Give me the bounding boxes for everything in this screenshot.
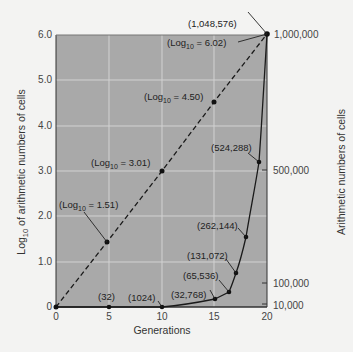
annotation-131072: (131,072) (187, 250, 228, 261)
svg-text:10,000: 10,000 (273, 300, 304, 311)
svg-text:1,000,000: 1,000,000 (274, 29, 319, 40)
svg-text:5: 5 (106, 311, 112, 322)
annotation-65536: (65,536) (183, 270, 218, 281)
annotation-262144: (262,144) (197, 220, 238, 231)
svg-text:100,000: 100,000 (273, 278, 310, 289)
svg-text:15: 15 (208, 311, 220, 322)
x-ticks: 0 5 10 15 20 (53, 311, 273, 322)
svg-text:10: 10 (156, 311, 168, 322)
annotation-32: (32) (98, 291, 115, 302)
left-y-ticks: 0 1.0 2.0 3.0 4.0 5.0 6.0 (38, 29, 52, 312)
svg-text:500,000: 500,000 (273, 165, 310, 176)
annotation-1024: (1024) (128, 292, 155, 303)
chart: (Log10 = 1.51) (Log10 = 3.01) (Log10 = 4… (0, 0, 353, 352)
right-axis-title: Arithmetic numbers of cells (335, 109, 347, 235)
svg-text:6.0: 6.0 (38, 29, 52, 40)
svg-text:20: 20 (261, 311, 273, 322)
x-axis-title: Generations (133, 324, 190, 336)
svg-text:0: 0 (46, 301, 52, 312)
annotation-32768: (32,768) (171, 289, 206, 300)
annotation-524288: (524,288) (211, 142, 252, 153)
svg-text:5.0: 5.0 (38, 74, 52, 85)
svg-text:4.0: 4.0 (38, 120, 52, 131)
svg-text:3.0: 3.0 (38, 165, 52, 176)
svg-text:2.0: 2.0 (38, 210, 52, 221)
right-y-ticks: 1,000,000 500,000 100,000 10,000 (273, 29, 319, 311)
svg-text:0: 0 (53, 311, 59, 322)
annotation-1048576: (1,048,576) (188, 18, 237, 29)
left-axis-title: Log10 of arithmetic numbers of cells (15, 89, 30, 254)
svg-text:1.0: 1.0 (38, 256, 52, 267)
